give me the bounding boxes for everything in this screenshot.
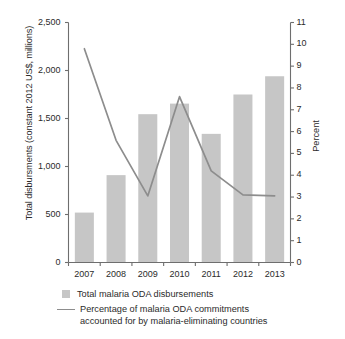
legend-line-swatch-icon: [57, 309, 75, 310]
bar-2012: [233, 95, 252, 263]
legend-bar-label: Total malaria ODA disbursements: [77, 288, 342, 301]
left-tick-label-1000: 1,000: [21, 161, 61, 171]
bar-2009: [138, 114, 157, 262]
left-tick-label-1500: 1,500: [21, 113, 61, 123]
right-tick-label-7: 7: [297, 104, 327, 114]
right-tick-label-0: 0: [297, 257, 327, 267]
chart-figure: Total disbursments (constant 2012 US$, m…: [0, 0, 345, 339]
legend-bar-swatch-icon: [62, 290, 70, 298]
right-tick-label-3: 3: [297, 191, 327, 201]
right-tick-label-4: 4: [297, 169, 327, 179]
left-tick-label-2000: 2,000: [21, 65, 61, 75]
left-tick-label-0: 0: [21, 257, 61, 267]
x-tick-label-2013: 2013: [255, 269, 295, 279]
legend-line-label: Percentage of malaria ODA commitments ac…: [80, 303, 342, 328]
bar-2007: [75, 213, 94, 263]
right-tick-label-1: 1: [297, 235, 327, 245]
bar-2008: [107, 175, 126, 262]
bar-2010: [170, 104, 189, 263]
legend-item-bars: Total malaria ODA disbursements: [62, 288, 342, 301]
right-tick-label-6: 6: [297, 126, 327, 136]
right-tick-label-8: 8: [297, 82, 327, 92]
right-tick-label-11: 11: [297, 17, 327, 27]
chart-legend: Total malaria ODA disbursements Percenta…: [62, 288, 342, 330]
right-tick-label-2: 2: [297, 213, 327, 223]
left-tick-label-500: 500: [21, 209, 61, 219]
left-tick-label-2500: 2,500: [21, 17, 61, 27]
right-tick-label-9: 9: [297, 60, 327, 70]
legend-line-label-line2: accounted for by malaria-eliminating cou…: [80, 315, 342, 328]
legend-line-label-line1: Percentage of malaria ODA commitments: [80, 304, 249, 314]
bar-2013: [265, 76, 284, 262]
right-tick-label-5: 5: [297, 147, 327, 157]
right-tick-label-10: 10: [297, 38, 327, 48]
legend-item-line: Percentage of malaria ODA commitments ac…: [62, 303, 342, 328]
